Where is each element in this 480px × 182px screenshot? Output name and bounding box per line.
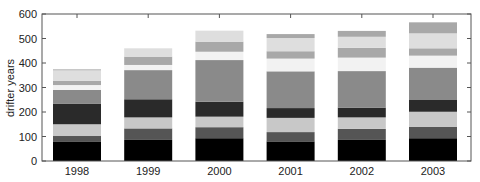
- x-tick-label: 2001: [278, 165, 302, 177]
- bar-segment-4: [195, 102, 243, 117]
- bar-segment-1: [53, 141, 101, 161]
- bar-segment-2: [53, 136, 101, 141]
- y-tick-label: 100: [19, 131, 37, 143]
- bar-segment-4: [124, 99, 172, 117]
- bar-segment-1: [338, 140, 386, 161]
- bar-segment-3: [267, 118, 315, 132]
- bar-segment-3: [195, 117, 243, 128]
- bar-2002: [338, 31, 386, 161]
- bar-2001: [267, 34, 315, 161]
- bar-segment-3: [338, 117, 386, 129]
- axes-frame: [42, 14, 471, 161]
- bar-segment-9: [338, 31, 386, 37]
- x-tick-label: 2000: [207, 165, 231, 177]
- x-tick-label: 2003: [421, 165, 445, 177]
- y-tick-label: 500: [19, 33, 37, 45]
- bar-2000: [195, 31, 243, 161]
- bar-segment-8: [338, 37, 386, 48]
- x-tick-label: 2002: [350, 165, 374, 177]
- bar-segment-2: [409, 127, 457, 139]
- bar-segment-7: [124, 57, 172, 65]
- bar-segment-5: [409, 68, 457, 100]
- bar-segment-2: [267, 132, 315, 141]
- y-axis-title: drifter years: [4, 58, 16, 117]
- bar-segment-7: [53, 81, 101, 85]
- bar-segment-6: [267, 59, 315, 72]
- bar-segment-1: [195, 138, 243, 161]
- bar-segment-5: [267, 71, 315, 108]
- bar-segment-5: [53, 90, 101, 104]
- y-tick-label: 200: [19, 106, 37, 118]
- bar-segment-7: [267, 51, 315, 58]
- bar-segment-5: [338, 71, 386, 108]
- x-axis: 199819992000200120022003: [65, 14, 445, 177]
- bar-segment-4: [338, 108, 386, 118]
- bar-segment-7: [338, 48, 386, 58]
- bar-segment-6: [53, 85, 101, 90]
- bar-segment-4: [267, 108, 315, 118]
- bar-segment-6: [195, 52, 243, 60]
- bar-segment-6: [124, 65, 172, 70]
- y-tick-label: 300: [19, 82, 37, 94]
- bar-segment-7: [195, 42, 243, 52]
- bar-segment-4: [53, 104, 101, 124]
- bar-segment-1: [124, 140, 172, 161]
- bar-segment-2: [338, 129, 386, 140]
- bar-segment-1: [267, 141, 315, 161]
- bar-segment-8: [267, 38, 315, 51]
- bar-segment-9: [53, 69, 101, 70]
- y-tick-label: 600: [19, 8, 37, 20]
- bar-segment-8: [124, 48, 172, 56]
- bar-segment-3: [124, 117, 172, 128]
- bar-segment-2: [124, 128, 172, 140]
- bars: [53, 22, 457, 161]
- bar-1998: [53, 69, 101, 161]
- y-tick-label: 400: [19, 57, 37, 69]
- bar-segment-8: [53, 70, 101, 80]
- bar-segment-8: [409, 33, 457, 48]
- bar-segment-2: [195, 127, 243, 138]
- x-tick-label: 1999: [136, 165, 160, 177]
- bar-segment-4: [409, 100, 457, 112]
- bar-segment-6: [338, 58, 386, 71]
- x-tick-label: 1998: [65, 165, 89, 177]
- bar-segment-9: [267, 34, 315, 38]
- bar-segment-3: [409, 112, 457, 127]
- stacked-bar-chart: 0100200300400500600 19981999200020012002…: [0, 0, 480, 182]
- y-tick-label: 0: [31, 155, 37, 167]
- bar-segment-1: [409, 138, 457, 161]
- bar-2003: [409, 22, 457, 161]
- bar-segment-8: [195, 31, 243, 42]
- bar-segment-7: [409, 48, 457, 55]
- bar-segment-5: [124, 70, 172, 99]
- bar-1999: [124, 48, 172, 161]
- bar-segment-5: [195, 60, 243, 102]
- bar-segment-9: [409, 22, 457, 33]
- bar-segment-3: [53, 124, 101, 136]
- bar-segment-6: [409, 56, 457, 68]
